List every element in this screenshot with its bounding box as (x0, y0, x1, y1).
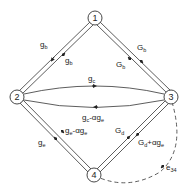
network-diagram: 1 2 3 4 gb gb Gb Gb gc gc-αge ge ge-αge … (0, 0, 189, 193)
svg-text:4: 4 (91, 170, 96, 180)
edge-1-3-outer (100, 22, 171, 91)
label-ge-outer: ge (38, 138, 46, 148)
label-Gd-agE: Gd+αge (138, 138, 164, 148)
node-4: 4 (87, 168, 101, 182)
edge-2-3-upper (24, 86, 164, 94)
label-e34: e34 (166, 163, 177, 173)
svg-text:3: 3 (168, 92, 173, 102)
node-2: 2 (10, 90, 24, 104)
node-1: 1 (88, 11, 102, 25)
edge-3-4-outer (100, 101, 171, 172)
label-Gb-outer: Gb (137, 43, 146, 53)
label-gb-inner: gb (65, 56, 73, 66)
edge-4-3-inner (97, 99, 167, 169)
label-gc: gc (88, 74, 95, 84)
svg-text:1: 1 (92, 13, 97, 23)
label-ge-agE: ge-αge (65, 126, 87, 136)
edge-3-1-inner (97, 25, 168, 94)
label-gc-agE: gc-αge (82, 113, 104, 123)
label-gb-outer: gb (40, 40, 48, 50)
edge-1-2-inner (22, 25, 93, 94)
edge-3-2-lower (24, 100, 164, 108)
node-3: 3 (164, 90, 178, 104)
label-Gb-inner: Gb (116, 60, 125, 70)
edge-4-2-outer (18, 101, 88, 172)
svg-text:2: 2 (14, 92, 19, 102)
label-Gd: Gd (115, 126, 124, 136)
edge-2-1-outer (18, 22, 90, 92)
